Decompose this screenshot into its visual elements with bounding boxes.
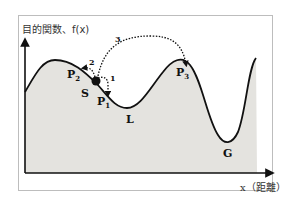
move-2-label: 2 bbox=[89, 57, 95, 67]
point-g-label: G bbox=[223, 147, 232, 160]
point-s-label: S bbox=[81, 87, 89, 100]
objective-function-plot: 1 2 3 P2 S P1 L P3 G bbox=[0, 0, 303, 205]
move-3-label: 3 bbox=[115, 34, 121, 44]
point-l-label: L bbox=[126, 113, 134, 126]
move-1-label: 1 bbox=[110, 73, 116, 83]
